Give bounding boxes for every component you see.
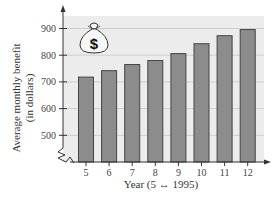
svg-text:Average monthly benefit: Average monthly benefit [10,43,22,152]
bar-year-7 [125,65,140,162]
dollar-sign: $ [90,35,99,52]
bar-year-11 [217,36,232,162]
y-tick-label: 500 [41,130,56,141]
bar-year-9 [171,54,186,162]
x-tick-label: 5 [84,167,89,178]
bar-year-10 [194,44,209,162]
bar-chart: 500600700800900 56789101112 Year (5 ↔ 19… [0,0,273,204]
y-tick-label: 800 [41,50,56,61]
x-tick-label: 8 [153,167,158,178]
bar-year-8 [148,61,163,162]
svg-text:(in dollars): (in dollars) [23,73,36,122]
y-tick-label: 900 [41,23,56,34]
x-tick-label: 12 [243,167,253,178]
y-axis-title: Average monthly benefit (in dollars) [10,43,36,152]
x-tick-label: 10 [197,167,207,178]
y-axis-arrow-icon [61,5,66,12]
x-tick-label: 6 [107,167,112,178]
y-tick-label: 700 [41,76,56,87]
x-axis-arrow-icon [264,160,271,165]
y-tick-label: 600 [41,103,56,114]
x-tick-label: 11 [220,167,230,178]
x-axis-title: Year (5 ↔ 1995) [124,178,199,191]
bar-year-12 [240,30,255,162]
bar-year-5 [79,77,94,162]
x-tick-label: 9 [176,167,181,178]
bar-year-6 [102,71,117,162]
x-tick-label: 7 [130,167,135,178]
x-ticks: 56789101112 [84,162,253,178]
